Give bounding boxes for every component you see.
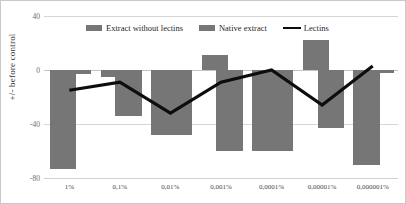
legend-label: Extract without lectins (106, 23, 183, 33)
lectins-line-series (44, 16, 398, 178)
x-axis-tick-label: 1% (65, 183, 74, 191)
y-axis-tick-label: 40 (14, 12, 40, 21)
legend-label: Lectins (304, 23, 329, 33)
legend-label: Native extract (219, 23, 267, 33)
y-axis-tick-group: 40 0 -40 -80 (14, 0, 40, 204)
x-axis-tick-label: 0,000001% (357, 183, 389, 191)
y-axis-tick-label: 0 (14, 66, 40, 75)
legend-item-native-extract: Native extract (199, 23, 267, 33)
bar-swatch-icon (199, 25, 215, 31)
lectins-polyline (69, 66, 372, 113)
x-axis-tick-label: 0,001% (210, 183, 232, 191)
x-axis-tick-group: 1% 0,1% 0,01% 0,001% 0,0001% 0,00001% 0,… (44, 180, 398, 200)
y-axis-tick-label: -80 (14, 174, 40, 183)
plot-area (44, 16, 398, 178)
chart-legend: Extract without lectins Native extract L… (86, 22, 345, 34)
line-swatch-icon (283, 27, 301, 30)
y-axis-tick-label: -40 (14, 120, 40, 129)
x-axis-tick-label: 0,1% (113, 183, 128, 191)
bar-swatch-icon (86, 25, 102, 31)
x-axis-tick-label: 0,00001% (308, 183, 337, 191)
legend-item-extract-without-lectins: Extract without lectins (86, 23, 183, 33)
x-axis-tick-label: 0,0001% (259, 183, 284, 191)
x-axis-tick-label: 0,01% (161, 183, 179, 191)
legend-item-lectins: Lectins (283, 23, 329, 33)
x-axis-line (44, 178, 398, 179)
chart-container: +/- before control 40 0 -40 -80 1% 0,1% … (0, 0, 406, 204)
